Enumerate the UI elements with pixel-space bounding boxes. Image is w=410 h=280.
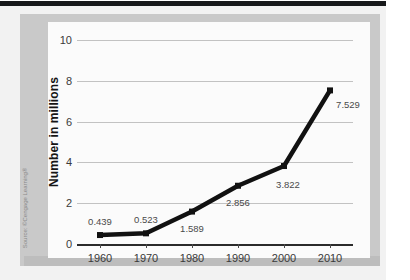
x-axis-tick-label: 2010 xyxy=(318,252,342,264)
x-axis-tick-mark xyxy=(238,244,239,248)
data-point-label: 3.822 xyxy=(276,179,300,190)
data-point-marker xyxy=(327,87,333,93)
plot-area: 0246810 196019701980199020002010 0.4390.… xyxy=(77,40,353,244)
x-axis-tick-mark xyxy=(192,244,193,248)
chart-panel: 0246810 196019701980199020002010 0.4390.… xyxy=(48,22,370,258)
data-point-marker xyxy=(143,230,149,236)
data-point-label: 0.439 xyxy=(88,216,112,227)
source-credit: Source: ©Cengage Learning® xyxy=(18,158,32,258)
data-point-marker xyxy=(97,232,103,238)
figure-container: 0246810 196019701980199020002010 0.4390.… xyxy=(0,0,410,280)
data-point-label: 2.856 xyxy=(226,196,250,207)
x-axis-tick-label: 1960 xyxy=(88,252,112,264)
x-axis-tick-label: 2000 xyxy=(272,252,296,264)
series-markers xyxy=(97,87,333,238)
y-axis-tick-label: 10 xyxy=(60,34,72,46)
y-axis-tick-label: 6 xyxy=(66,116,72,128)
y-axis-tick-label: 4 xyxy=(66,156,72,168)
x-axis-line xyxy=(77,244,353,246)
y-axis-tick-label: 8 xyxy=(66,75,72,87)
data-point-marker xyxy=(281,163,287,169)
x-axis-tick-label: 1980 xyxy=(180,252,204,264)
data-point-marker xyxy=(189,209,195,215)
y-axis-tick-label: 2 xyxy=(66,197,72,209)
x-axis-tick-mark xyxy=(330,244,331,248)
data-point-label: 1.589 xyxy=(180,222,204,233)
x-axis-tick-mark xyxy=(100,244,101,248)
data-point-label: 0.523 xyxy=(134,214,158,225)
y-axis-tick-label: 0 xyxy=(66,238,72,250)
data-point-marker xyxy=(235,183,241,189)
data-point-label: 7.529 xyxy=(336,99,360,110)
y-axis-title: Number in millions xyxy=(46,72,62,192)
x-axis-tick-label: 1990 xyxy=(226,252,250,264)
data-series xyxy=(77,40,353,244)
source-credit-text: Source: ©Cengage Learning® xyxy=(22,168,28,249)
x-axis-tick-mark xyxy=(146,244,147,248)
x-axis-tick-label: 1970 xyxy=(134,252,158,264)
y-axis-title-text: Number in millions xyxy=(47,77,61,187)
x-axis-tick-mark xyxy=(284,244,285,248)
